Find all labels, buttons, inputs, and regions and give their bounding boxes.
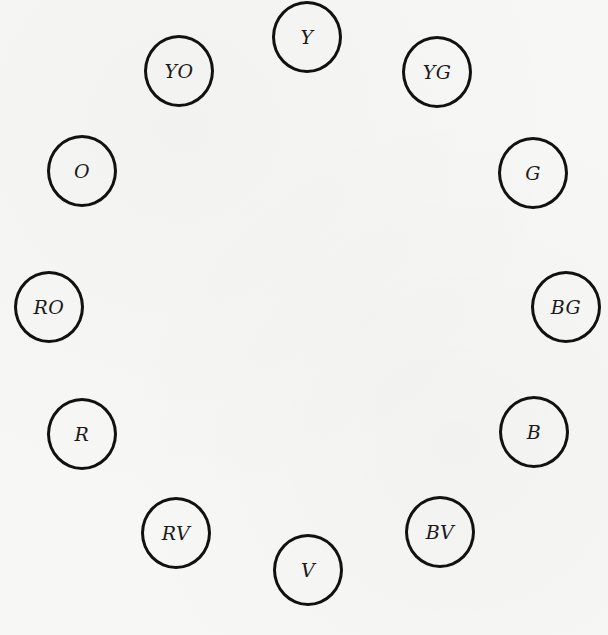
node-green: G (498, 137, 568, 209)
node-blue-green: BG (531, 271, 601, 343)
node-yellow-green: YG (402, 36, 472, 108)
node-blue: B (499, 396, 569, 468)
color-wheel-diagram: Y YG G BG B BV V RV R RO O YO (0, 0, 608, 635)
node-label: R (75, 425, 90, 444)
node-label: BG (551, 298, 582, 317)
node-red-orange: RO (14, 271, 84, 343)
node-label: Y (300, 28, 313, 47)
node-label: YO (164, 62, 193, 81)
node-yellow: Y (272, 1, 342, 73)
node-label: G (525, 164, 541, 183)
node-label: YG (423, 63, 452, 82)
node-label: V (301, 561, 315, 580)
node-label: O (74, 162, 90, 181)
node-yellow-orange: YO (144, 35, 214, 107)
node-label: RO (34, 298, 65, 317)
node-blue-violet: BV (405, 496, 475, 568)
node-label: B (527, 423, 541, 442)
node-red-violet: RV (141, 497, 211, 569)
node-label: BV (426, 523, 455, 542)
node-red: R (47, 398, 117, 470)
node-orange: O (47, 135, 117, 207)
node-label: RV (162, 524, 190, 543)
node-violet: V (273, 534, 343, 606)
